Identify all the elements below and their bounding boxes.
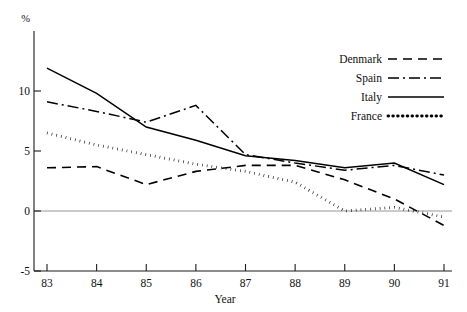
x-tick-label: 90 (389, 277, 401, 289)
x-tick-label: 91 (438, 277, 450, 289)
legend-label-italy: Italy (361, 91, 382, 104)
x-axis-ticks: 838485868788899091 (41, 264, 450, 289)
y-tick-label: 0 (24, 205, 30, 217)
series-lines-layer (47, 68, 444, 225)
legend-label-france: France (351, 110, 382, 122)
y-axis-ticks: 201050-5 (19, 0, 42, 277)
x-tick-label: 86 (190, 277, 202, 289)
chart-legend: DenmarkSpainItalyFrance (339, 53, 444, 122)
x-tick-label: 83 (41, 277, 53, 289)
y-tick-label: -5 (20, 265, 30, 277)
series-line-denmark (47, 165, 444, 225)
x-axis-title: Year (214, 293, 235, 305)
plot-axes (34, 31, 452, 271)
y-axis-unit-label: % (21, 13, 30, 24)
series-line-france (47, 133, 444, 217)
chart-canvas: 201050-5 838485868788899091 % Year Denma… (0, 0, 467, 312)
y-tick-label: 5 (24, 145, 30, 157)
x-tick-label: 84 (91, 277, 103, 289)
x-tick-label: 85 (141, 277, 153, 289)
x-tick-label: 88 (289, 277, 301, 289)
legend-label-spain: Spain (356, 72, 382, 85)
series-line-italy (47, 68, 444, 184)
inflation-line-chart: 201050-5 838485868788899091 % Year Denma… (0, 0, 467, 312)
x-tick-label: 87 (240, 277, 252, 289)
legend-label-denmark: Denmark (339, 53, 382, 65)
x-tick-label: 89 (339, 277, 351, 289)
y-tick-label: 10 (19, 85, 31, 97)
